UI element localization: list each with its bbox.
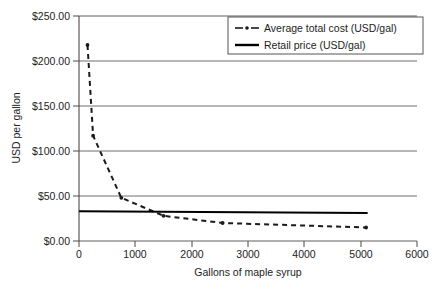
y-tick-label-0: $0.00 bbox=[44, 235, 70, 247]
data-point bbox=[364, 226, 368, 230]
chart-canvas: $250.00 $200.00 $150.00 $100.00 $50.00 $… bbox=[0, 0, 441, 286]
x-tick-label-0: 0 bbox=[76, 248, 82, 260]
data-point bbox=[91, 134, 95, 138]
x-tick-label-6000: 6000 bbox=[405, 248, 429, 260]
y-tick-label-250: $250.00 bbox=[32, 10, 70, 22]
y-tick-label-50: $50.00 bbox=[38, 190, 70, 202]
x-tick-label-4000: 4000 bbox=[292, 248, 316, 260]
data-point bbox=[162, 214, 166, 218]
legend-swatch-marker-icon bbox=[245, 26, 249, 30]
x-tick-label-2000: 2000 bbox=[180, 248, 204, 260]
legend-label-average-total-cost: Average total cost (USD/gal) bbox=[264, 22, 397, 34]
x-axis-title: Gallons of maple syrup bbox=[194, 266, 302, 278]
legend-label-retail-price: Retail price (USD/gal) bbox=[264, 39, 366, 51]
y-tick-label-100: $100.00 bbox=[32, 145, 70, 157]
data-point bbox=[86, 43, 90, 47]
x-tick-label-5000: 5000 bbox=[349, 248, 373, 260]
data-point bbox=[221, 221, 225, 225]
y-tick-label-200: $200.00 bbox=[32, 55, 70, 67]
legend: Average total cost (USD/gal) Retail pric… bbox=[228, 17, 423, 54]
y-axis-title: USD per gallon bbox=[10, 92, 22, 163]
chart-container: $250.00 $200.00 $150.00 $100.00 $50.00 $… bbox=[0, 0, 441, 286]
x-tick-label-1000: 1000 bbox=[123, 248, 147, 260]
y-tick-label-150: $150.00 bbox=[32, 100, 70, 112]
x-tick-label-3000: 3000 bbox=[236, 248, 260, 260]
data-point bbox=[119, 196, 123, 200]
